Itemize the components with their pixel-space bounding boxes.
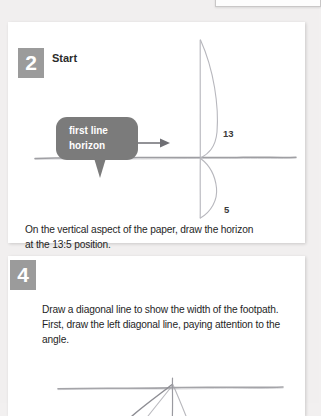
lower-brace [200,159,216,219]
right-diagonal-line [173,385,186,416]
step-panel-2[interactable]: 2 Start first line horizon 13 5 On t [8,22,305,243]
measurement-label-upper: 13 [223,128,234,139]
measurement-label-lower: 5 [224,204,229,215]
upper-brace [201,40,218,158]
step-number-badge-2: 2 [18,48,44,78]
horizon-line-4 [58,387,283,389]
callout-bubble-tail [94,158,106,178]
left-diagonal-line-secondary [148,386,172,416]
horizon-line-4-shadow [58,388,283,390]
callout-bubble-text: first line horizon [69,123,108,153]
step-caption-2: On the vertical aspect of the paper, dra… [25,222,255,252]
step-title-2: Start [52,52,77,64]
step-panel-4[interactable]: 4 Draw a diagonal line to show the width… [8,256,305,416]
callout-bubble: first line horizon [56,117,138,160]
right-arrow-icon [136,139,170,148]
previous-panel-stub [215,0,321,7]
step-caption-4: Draw a diagonal line to show the width o… [42,302,287,347]
step-number-badge-4: 4 [10,260,36,290]
left-diagonal-line [132,385,172,416]
